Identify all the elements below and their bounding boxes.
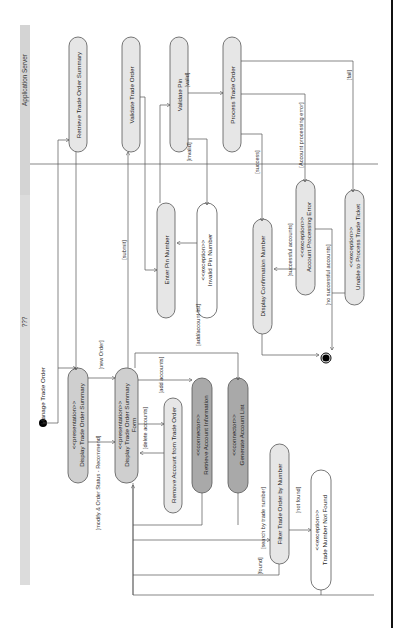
svg-text:<<connector>>: <<connector>>	[194, 414, 201, 456]
node-process-trade-order[interactable]: Process Trade Order	[223, 37, 241, 152]
guard-successful-accounts: [successful accounts]	[287, 223, 293, 277]
node-validate-pin[interactable]: Validate Pin	[170, 37, 188, 152]
guard-success: [success]	[254, 150, 260, 174]
svg-text:<<exception>>: <<exception>>	[347, 226, 354, 267]
svg-text:<<exception>>: <<exception>>	[199, 239, 206, 280]
guard-not-found: [not found]	[295, 486, 301, 513]
svg-text:Validate Pin: Validate Pin	[176, 78, 183, 111]
node-remove-account-from-trade-order[interactable]: Remove Account from Trade Order	[164, 398, 182, 513]
guard-valid: [valid]	[184, 72, 190, 87]
lane-header-app-server	[20, 25, 30, 195]
guard-account-processing-error: [Account processing error]	[298, 102, 304, 168]
svg-text:Validate Trade Order: Validate Trade Order	[128, 67, 135, 124]
lane-header-main	[20, 195, 30, 585]
node-display-trade-order-summary[interactable]: <<presentation>> Display Trade Order Sum…	[68, 368, 88, 483]
svg-text:Retrieve Trade Order Summary: Retrieve Trade Order Summary	[75, 51, 82, 138]
guard-found: [found]	[257, 557, 263, 575]
lane-label-app-server: Application Server	[21, 53, 29, 106]
node-validate-trade-order[interactable]: Validate Trade Order	[122, 37, 140, 152]
activity-diagram: Application Server ??? Manage Trade Orde…	[0, 0, 401, 628]
node-retrieve-account-information[interactable]: <<connector>> Retrieve Account Informati…	[192, 378, 212, 493]
svg-text:Display Confirmation Number: Display Confirmation Number	[259, 236, 266, 317]
start-label: Manage Trade Order	[39, 367, 46, 424]
guard-no-successful-accounts: [no successful accounts]	[325, 244, 331, 305]
svg-text:Remove Account from Trade Orde: Remove Account from Trade Order	[170, 407, 177, 503]
svg-text:<<connector>>: <<connector>>	[230, 414, 237, 456]
node-enter-pin-number[interactable]: Enter Pin Number	[157, 203, 175, 318]
node-filter-trade-order-by-number[interactable]: Filter Trade Order by Number	[270, 444, 289, 564]
svg-text:Unable to Process Trade Ticket: Unable to Process Trade Ticket	[354, 204, 361, 290]
svg-text:Process Trade Order: Process Trade Order	[229, 66, 236, 123]
svg-text:<<exception>>: <<exception>>	[298, 216, 305, 257]
node-display-confirmation-number[interactable]: Display Confirmation Number	[253, 219, 272, 334]
final-node-dot	[322, 354, 329, 361]
svg-text:Form: Form	[130, 418, 137, 432]
svg-text:Generate Account List: Generate Account List	[238, 404, 245, 465]
node-retrieve-trade-order-summary[interactable]: Retrieve Trade Order Summary	[69, 37, 87, 152]
svg-text:Retrieve Account Information: Retrieve Account Information	[202, 395, 209, 475]
guard-invalid: [invalid]	[186, 142, 192, 161]
guard-delete-accounts: [delete accounts]	[142, 406, 148, 449]
svg-text:Trade Number Not Found: Trade Number Not Found	[321, 494, 328, 565]
guard-submit: [submit]	[121, 240, 127, 260]
node-invalid-pin-number[interactable]: <<exception>> Invalid Pin Number	[197, 203, 217, 318]
guard-add-accounts: [add accounts]	[158, 356, 164, 393]
svg-text:Enter Pin Number: Enter Pin Number	[163, 235, 170, 284]
svg-text:Filter Trade Order by Number: Filter Trade Order by Number	[276, 464, 283, 545]
guard-new-order: [new Order]	[98, 340, 104, 370]
svg-text:Account Processing Error: Account Processing Error	[305, 202, 312, 272]
guard-add-account-list: [add/account list]	[195, 304, 201, 346]
guard-fail: [fail]	[346, 69, 352, 80]
svg-text:Display Trade Order Summary: Display Trade Order Summary	[123, 382, 130, 466]
node-display-trade-order-summary-form[interactable]: <<presentation>> Display Trade Order Sum…	[115, 368, 138, 483]
svg-text:<<exception>>: <<exception>>	[313, 509, 320, 550]
svg-text:Display Trade Order Summary: Display Trade Order Summary	[78, 382, 85, 466]
guard-modify-order-status: [modify & Order Status - Recommend]	[95, 435, 101, 530]
guard-search-by-trade-number: [search by trade number]	[260, 486, 266, 549]
svg-text:<<presentation>>: <<presentation>>	[70, 400, 77, 449]
diagram-title: ???	[21, 316, 28, 327]
svg-text:Invalid Pin Number: Invalid Pin Number	[206, 234, 213, 286]
svg-text:<<presentation>>: <<presentation>>	[116, 400, 123, 449]
node-trade-number-not-found[interactable]: <<exception>> Trade Number Not Found	[311, 470, 331, 590]
node-unable-to-process-trade-ticket[interactable]: <<exception>> Unable to Process Trade Ti…	[345, 190, 364, 305]
node-account-processing-error[interactable]: <<exception>> Account Processing Error	[296, 180, 315, 295]
node-generate-account-list[interactable]: <<connector>> Generate Account List	[228, 378, 248, 493]
